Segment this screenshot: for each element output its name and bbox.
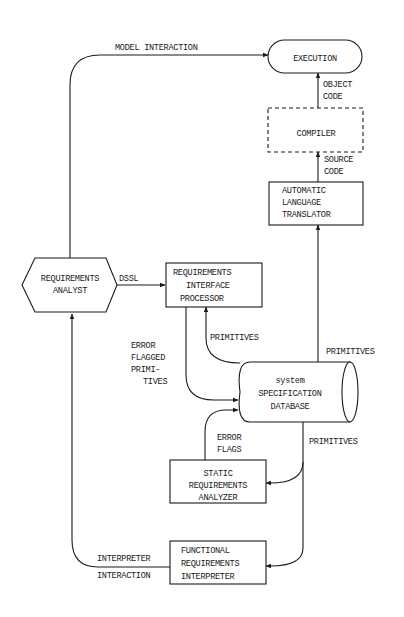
node-processor-line-1: REQUIREMENTS (173, 268, 231, 278)
edge-primitives-interpreter (266, 462, 303, 566)
label-source-code-1: SOURCE (324, 155, 353, 165)
node-static-analyzer[interactable]: STATIC REQUIREMENTS ANALYZER (170, 460, 266, 503)
node-static-line-2: REQUIREMENTS (189, 481, 247, 491)
node-processor-line-2: INTERFACE (186, 281, 230, 291)
node-compiler[interactable]: COMPILER (268, 108, 363, 152)
node-static-line-3: ANALYZER (199, 493, 238, 503)
node-functional-line-3: INTERPRETER (181, 572, 235, 582)
node-specification-database[interactable]: system SPECIFICATION DATABASE (239, 362, 358, 422)
label-error-flags-2: FLAGS (217, 445, 241, 455)
label-primitives-analyzers: PRIMITIVES (309, 437, 358, 447)
node-execution[interactable]: EXECUTION (268, 40, 362, 73)
label-primitives-processor: PRIMITIVES (210, 333, 259, 343)
diagram-canvas: EXECUTION COMPILER AUTOMATIC LANGUAGE TR… (0, 0, 404, 617)
node-processor-line-3: PROCESSOR (180, 294, 224, 304)
label-interpreter-interaction-2: INTERACTION (97, 571, 151, 581)
label-primitives-translator: PRIMITIVES (326, 347, 375, 357)
label-error-flagged-2: FLAGGED (131, 353, 165, 363)
node-database-line-1: system (275, 376, 304, 386)
node-database-line-2: SPECIFICATION (258, 389, 321, 399)
label-error-flagged-3: PRIMI- (131, 365, 160, 375)
node-interface-processor[interactable]: REQUIREMENTS INTERFACE PROCESSOR (166, 263, 262, 307)
node-functional-line-1: FUNCTIONAL (181, 546, 230, 556)
node-translator[interactable]: AUTOMATIC LANGUAGE TRANSLATOR (269, 182, 363, 225)
node-functional-line-2: REQUIREMENTS (181, 559, 239, 569)
node-compiler-label: COMPILER (297, 129, 336, 139)
node-analyst-line-2: ANALYST (53, 286, 87, 296)
label-interpreter-interaction-1: INTERPRETER (97, 554, 151, 564)
label-object-code-2: CODE (323, 92, 343, 102)
label-error-flagged-1: ERROR (131, 341, 155, 351)
label-model-interaction: MODEL INTERACTION (115, 43, 198, 53)
node-functional-interpreter[interactable]: FUNCTIONAL REQUIREMENTS INTERPRETER (170, 541, 266, 584)
node-translator-line-2: LANGUAGE (282, 198, 321, 208)
label-source-code-2: CODE (324, 167, 344, 177)
label-error-flags-1: ERROR (217, 433, 241, 443)
label-object-code-1: OBJECT (323, 80, 352, 90)
node-static-line-1: STATIC (203, 469, 232, 479)
edge-interpreter-interaction (72, 314, 170, 567)
node-execution-label: EXECUTION (293, 54, 337, 64)
node-translator-line-3: TRANSLATOR (282, 210, 331, 220)
edge-model-interaction (70, 55, 268, 262)
node-analyst-line-1: REQUIREMENTS (41, 274, 99, 284)
label-error-flagged-4: TIVES (143, 377, 167, 387)
label-dssl: DSSL (119, 274, 139, 284)
node-translator-line-1: AUTOMATIC (282, 186, 326, 196)
edge-error-flagged-primitives (186, 307, 238, 400)
node-requirements-analyst[interactable]: REQUIREMENTS ANALYST (22, 258, 117, 312)
node-database-line-3: DATABASE (271, 402, 310, 412)
edge-primitives-analyzers (266, 422, 303, 483)
